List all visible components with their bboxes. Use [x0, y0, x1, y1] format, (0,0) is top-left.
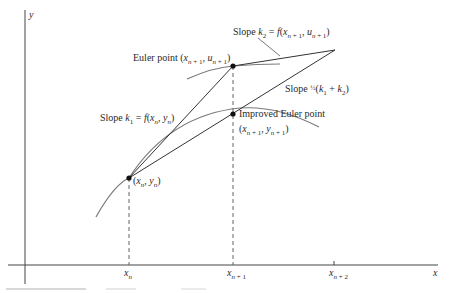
y-axis-label: y	[29, 10, 33, 20]
slope-k2-label: Slope k2 = f(xn + 1, un + 1)	[233, 27, 330, 40]
euler-point-dot	[230, 63, 235, 68]
improved-euler-coords: (xn + 1, yn + 1)	[239, 124, 289, 137]
improved-euler-label: Improved Euler point	[239, 109, 325, 119]
start-point-label: (xn, yn)	[133, 176, 161, 189]
slope-k1-label: Slope k1 = f(xn, yn)	[100, 113, 174, 126]
tick-label-xn: xn	[124, 268, 132, 281]
euler-point-label: Euler point (xn + 1, un + 1)	[133, 53, 230, 66]
caption-strip	[6, 288, 446, 290]
tick-label-xn1: xn + 1	[227, 268, 246, 281]
slope-k2-line	[233, 50, 335, 66]
tick-label-xn2: xn + 2	[329, 268, 348, 281]
x-axis-label: x	[433, 268, 437, 278]
diagram-svg	[0, 0, 458, 293]
improved-euler-point-dot	[230, 111, 235, 116]
slope-average-label: Slope ½(k1 + k2)	[285, 84, 349, 97]
start-point-dot	[126, 175, 131, 180]
slope-k2-leader	[258, 38, 280, 56]
